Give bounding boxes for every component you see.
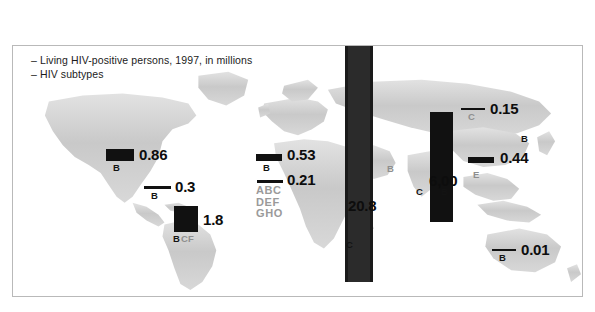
value-china: 0.15 (490, 101, 518, 116)
value-australia: 0.01 (521, 242, 549, 257)
subtype-india-right: B (441, 187, 448, 197)
map-panel: – Living HIV-positive persons, 1997, in … (12, 45, 583, 297)
subtype-list-eastern-europe: ABC DEF GHO (256, 185, 283, 220)
value-north-america: 0.86 (139, 147, 167, 162)
subtype-south-america-b: B (173, 234, 180, 244)
bar-australia (492, 249, 516, 251)
subtype-row-3: GHO (256, 208, 283, 220)
subtype-india-left: C (416, 187, 423, 197)
subtype-middle-east: B (387, 164, 394, 174)
legend-line-1: – Living HIV-positive persons, 1997, in … (31, 54, 252, 68)
value-south-america: 1.8 (203, 212, 223, 227)
bar-north-america (106, 149, 134, 161)
bar-india (430, 112, 453, 222)
value-western-europe: 0.53 (287, 147, 315, 162)
subtype-central-america: B (151, 191, 158, 201)
value-south-east-asia: 0.44 (500, 150, 528, 165)
figure-canvas: – Living HIV-positive persons, 1997, in … (0, 0, 595, 312)
subtype-japan: B (521, 134, 528, 144)
bar-south-america (174, 206, 198, 232)
subtype-africa: C (346, 240, 353, 250)
bar-south-east-asia (468, 157, 494, 163)
bar-western-europe (256, 154, 282, 161)
subtype-south-america-cf: CF (181, 234, 194, 244)
bar-china (461, 108, 485, 110)
subtype-south-east-asia: E (473, 170, 480, 180)
value-africa: 20.8 (348, 198, 376, 213)
bar-central-america (144, 186, 171, 189)
subtype-western-europe: B (263, 163, 270, 173)
subtype-australia: B (499, 253, 506, 263)
legend: – Living HIV-positive persons, 1997, in … (31, 54, 252, 81)
legend-line-2: – HIV subtypes (31, 68, 252, 82)
subtype-china: C (468, 112, 475, 122)
subtype-north-america: B (113, 163, 120, 173)
value-central-america: 0.3 (175, 179, 195, 194)
subtype-row-1: ABC (256, 185, 283, 197)
bar-eastern-europe (257, 180, 283, 183)
value-eastern-europe: 0.21 (287, 172, 315, 187)
